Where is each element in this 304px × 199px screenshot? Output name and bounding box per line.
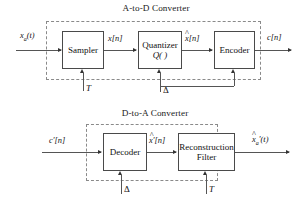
block-reconstruction-filter[interactable]: Reconstruction Filter (178, 133, 235, 171)
arrowhead-encoder-delta (231, 69, 235, 73)
block-filter-label-line2: Filter (197, 152, 217, 162)
block-filter-label-line1: Reconstruction (179, 142, 234, 152)
block-quantizer-label: Quantizer (142, 40, 177, 50)
block-quantizer-sublabel: Q( ) (153, 50, 168, 60)
line-delta-to-encoder (234, 73, 235, 86)
block-encoder[interactable]: Encoder (214, 31, 255, 69)
line-T-to-filter (206, 175, 207, 194)
param-label-delta-dac: Δ (124, 184, 130, 194)
signal-label-x-n: x[n] (108, 34, 122, 43)
adc-output-arrowhead (288, 48, 292, 52)
adc-group-title: A-to-D Converter (93, 3, 219, 13)
block-decoder-label: Decoder (110, 147, 140, 157)
arrowhead-decoder-delta (118, 171, 122, 175)
adc-output-line (255, 50, 291, 51)
signal-label-xhat-prime-a-t: ^xa′(t) (252, 135, 268, 146)
arrowhead-encoder-in (209, 48, 213, 52)
signal-label-xa-t: xa(t) (20, 31, 35, 42)
arrowhead-quantizer-in (133, 48, 137, 52)
line-delta-to-decoder (121, 175, 122, 194)
line-delta-stem-adc (160, 86, 161, 92)
line-quantizer-to-encoder (182, 50, 212, 51)
block-sampler-label: Sampler (68, 45, 98, 55)
dac-group-title: D-to-A Converter (92, 108, 218, 118)
dac-output-arrowhead (286, 150, 290, 154)
signal-label-c-n: c[n] (267, 33, 281, 42)
dac-output-line (235, 152, 289, 153)
line-T-to-sampler (83, 73, 84, 91)
param-label-T-adc: T (86, 83, 91, 93)
signal-label-xhat-prime-n: ^x′[n] (149, 136, 165, 145)
arrowhead-sampler-T (80, 69, 84, 73)
signal-label-c-prime-n: c′[n] (49, 136, 65, 145)
figure-canvas: A-to-D Converter xa(t) Sampler x[n] Quan… (0, 0, 304, 199)
line-sampler-to-quantizer (104, 50, 136, 51)
line-decoder-to-filter (147, 152, 176, 153)
adc-input-line (16, 50, 61, 51)
arrowhead-filter-T (203, 171, 207, 175)
line-delta-to-quantizer (160, 73, 161, 86)
param-label-delta-adc: Δ (163, 85, 169, 95)
block-encoder-label: Encoder (220, 45, 250, 55)
block-decoder[interactable]: Decoder (103, 133, 147, 171)
block-quantizer[interactable]: Quantizer Q( ) (138, 31, 182, 69)
dac-input-arrowhead (98, 150, 102, 154)
param-label-T-dac: T (209, 184, 214, 194)
block-sampler[interactable]: Sampler (62, 31, 104, 69)
signal-label-xhat-n: ^x[n] (185, 34, 199, 43)
arrowhead-quantizer-delta (157, 69, 161, 73)
line-delta-bus (160, 86, 234, 87)
dac-input-line (42, 152, 101, 153)
arrowhead-filter-in (173, 150, 177, 154)
